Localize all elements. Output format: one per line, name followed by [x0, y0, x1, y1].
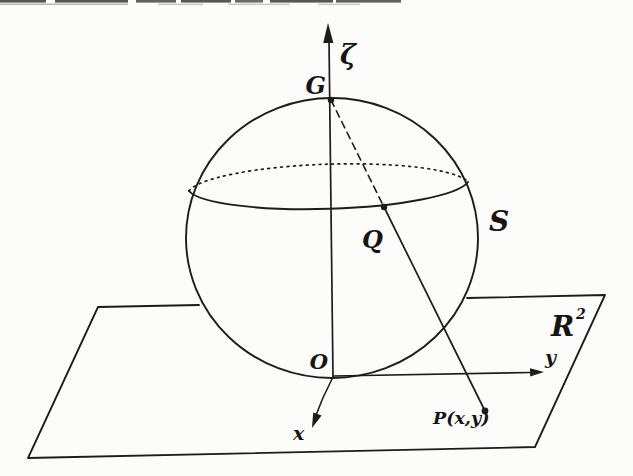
label-y-axis: y	[544, 346, 558, 368]
point-q-dot	[381, 204, 387, 210]
label-x-axis: x	[292, 422, 305, 444]
equator-back-dotted	[189, 164, 468, 191]
label-sphere-s: S	[489, 205, 509, 238]
y-axis-arrowhead	[530, 368, 544, 376]
point-g-dot	[328, 97, 334, 103]
projection-ray-solid	[384, 207, 485, 411]
x-axis-arrowhead	[312, 412, 322, 428]
x-axis-line	[315, 377, 334, 419]
projection-ray-dashed	[331, 100, 384, 207]
label-north-pole-g: G	[306, 71, 327, 100]
label-point-q: Q	[362, 225, 383, 254]
equator-front	[189, 182, 468, 209]
figure-stereographic-projection: ζ G S Q R 2 O y x P(x,y)	[0, 0, 633, 476]
label-plane-r: R	[550, 310, 574, 343]
label-origin-o: O	[310, 349, 329, 374]
figure-canvas: ζ G S Q R 2 O y x P(x,y)	[0, 0, 633, 476]
label-point-p: P(x,y)	[432, 408, 489, 428]
zeta-axis-arrowhead	[323, 23, 333, 43]
label-zeta-axis: ζ	[340, 39, 358, 70]
scan-artifact-top	[0, 0, 401, 5]
label-plane-r-exponent: 2	[575, 306, 586, 322]
